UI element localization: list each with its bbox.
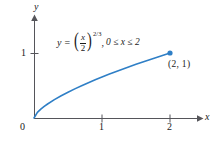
graph-figure: y x 1 0 1 2 (2, 1) y = ( x 2 ) 2/3 , 0 ≤… xyxy=(0,0,220,141)
equation-fraction-group: ( x 2 ) 2/3 xyxy=(73,32,101,53)
x-axis-label: x xyxy=(205,112,209,122)
right-paren: ) xyxy=(87,32,92,48)
fraction-numerator: x xyxy=(80,33,86,42)
left-paren: ( xyxy=(74,32,79,48)
x-tick-label-2: 2 xyxy=(167,122,172,132)
y-axis-label: y xyxy=(34,2,38,12)
equation-equals: = xyxy=(64,37,70,48)
y-axis-arrowhead xyxy=(31,15,38,22)
origin-label: 0 xyxy=(20,122,25,132)
x-axis-arrowhead xyxy=(197,115,204,122)
endpoint-label: (2, 1) xyxy=(168,60,190,70)
exponent: 2/3 xyxy=(93,30,102,37)
plot-canvas xyxy=(0,0,220,141)
fraction-denominator: 2 xyxy=(80,44,87,53)
curve-path xyxy=(34,53,170,118)
y-tick-label-1: 1 xyxy=(21,48,26,58)
equation-comma: , xyxy=(102,37,105,48)
equation-lhs: y xyxy=(57,37,61,48)
fraction: x 2 xyxy=(80,33,87,54)
endpoint-dot xyxy=(167,50,172,55)
equation-domain: 0 ≤ x ≤ 2 xyxy=(106,37,140,47)
equation-annotation: y = ( x 2 ) 2/3 , 0 ≤ x ≤ 2 xyxy=(57,32,140,53)
x-tick-label-1: 1 xyxy=(99,122,104,132)
